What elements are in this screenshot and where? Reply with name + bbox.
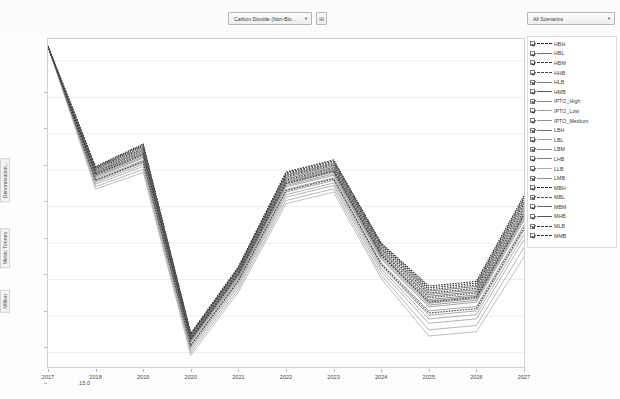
legend-item-label: MLB xyxy=(554,223,565,229)
legend-checkbox-icon[interactable] xyxy=(530,176,535,181)
legend-checkbox-icon[interactable] xyxy=(530,214,535,219)
legend-item-label: LBM xyxy=(554,146,565,152)
legend-item-label: LLB xyxy=(554,166,564,172)
chart-legend[interactable]: HBHHBLHBMHHBHLBHMBIPTO_HighIPTO_LowIPTO_… xyxy=(527,36,617,248)
series-line xyxy=(48,46,524,336)
legend-checkbox-icon[interactable] xyxy=(530,89,535,94)
legend-line-swatch xyxy=(537,137,552,142)
legend-item-lbh[interactable]: LBH xyxy=(530,125,614,135)
legend-item-label: LMB xyxy=(554,175,565,181)
legend-line-swatch xyxy=(537,128,552,133)
legend-checkbox-icon[interactable] xyxy=(530,156,535,161)
legend-item-mbl[interactable]: MBL xyxy=(530,193,614,203)
legend-checkbox-icon[interactable] xyxy=(530,166,535,171)
y-axis-title-part: Million xyxy=(0,290,10,313)
legend-line-swatch xyxy=(537,176,552,181)
x-axis-tick-label: 2021 xyxy=(218,374,258,380)
legend-item-mbm[interactable]: MBM xyxy=(530,202,614,212)
y-axis-tick-label: 15.0 xyxy=(50,380,90,386)
chevron-down-icon: ▼ xyxy=(607,17,611,21)
x-axis-tick-label: 2022 xyxy=(266,374,306,380)
legend-item-label: HBL xyxy=(554,50,564,56)
scenario-select[interactable]: All Scenarios ▼ xyxy=(527,12,615,25)
legend-item-mmb[interactable]: MMB xyxy=(530,231,614,241)
x-axis-tick-label: 2019 xyxy=(123,374,163,380)
legend-item-mhb[interactable]: MHB xyxy=(530,212,614,222)
y-axis-tick-mark xyxy=(44,383,47,384)
legend-line-swatch xyxy=(537,108,552,113)
chevron-down-icon: ▼ xyxy=(304,17,308,21)
x-axis-tick-mark xyxy=(381,369,382,372)
legend-item-lbm[interactable]: LBM xyxy=(530,145,614,155)
legend-item-lhb[interactable]: LHB xyxy=(530,154,614,164)
legend-line-swatch xyxy=(537,214,552,219)
series-line xyxy=(48,46,524,346)
x-axis-tick-label: 2024 xyxy=(361,374,401,380)
dimension-filter-group: Carbon Dioxide (Non-Biogenic) ▼ ⊞ xyxy=(228,12,327,25)
legend-line-swatch xyxy=(537,51,552,56)
legend-line-swatch xyxy=(537,118,552,123)
legend-checkbox-icon[interactable] xyxy=(530,195,535,200)
legend-line-swatch xyxy=(537,60,552,65)
legend-item-mlb[interactable]: MLB xyxy=(530,221,614,231)
legend-item-hbm[interactable]: HBM xyxy=(530,58,614,68)
legend-checkbox-icon[interactable] xyxy=(530,185,535,190)
legend-item-label: HLB xyxy=(554,79,564,85)
legend-line-swatch xyxy=(537,147,552,152)
legend-line-swatch xyxy=(537,233,552,238)
scenario-select-value: All Scenarios xyxy=(533,16,563,22)
legend-item-ipto_low[interactable]: IPTO_Low xyxy=(530,106,614,116)
x-axis-tick-mark xyxy=(238,369,239,372)
legend-item-label: HMB xyxy=(554,89,566,95)
legend-item-hlb[interactable]: HLB xyxy=(530,77,614,87)
legend-line-swatch xyxy=(537,195,552,200)
legend-checkbox-icon[interactable] xyxy=(530,128,535,133)
legend-item-label: MMB xyxy=(554,233,566,239)
legend-item-ipto_medium[interactable]: IPTO_Medium xyxy=(530,116,614,126)
legend-item-label: IPTO_Low xyxy=(554,108,579,114)
legend-checkbox-icon[interactable] xyxy=(530,51,535,56)
legend-checkbox-icon[interactable] xyxy=(530,99,535,104)
legend-checkbox-icon[interactable] xyxy=(530,233,535,238)
legend-checkbox-icon[interactable] xyxy=(530,80,535,85)
plot-area xyxy=(47,38,525,368)
legend-checkbox-icon[interactable] xyxy=(530,70,535,75)
legend-item-hmb[interactable]: HMB xyxy=(530,87,614,97)
legend-item-hhb[interactable]: HHB xyxy=(530,68,614,78)
legend-item-label: IPTO_Medium xyxy=(554,118,588,124)
x-axis-tick-mark xyxy=(524,369,525,372)
legend-line-swatch xyxy=(537,204,552,209)
legend-line-swatch xyxy=(537,70,552,75)
legend-item-ipto_high[interactable]: IPTO_High xyxy=(530,97,614,107)
x-axis-tick-mark xyxy=(143,369,144,372)
x-axis-tick-mark xyxy=(48,369,49,372)
x-axis-tick-mark xyxy=(96,369,97,372)
dimension-select[interactable]: Carbon Dioxide (Non-Biogenic) ▼ xyxy=(228,12,312,25)
legend-item-mbh[interactable]: MBH xyxy=(530,183,614,193)
legend-item-hbh[interactable]: HBH xyxy=(530,39,614,49)
legend-checkbox-icon[interactable] xyxy=(530,118,535,123)
legend-line-swatch xyxy=(537,80,552,85)
legend-checkbox-icon[interactable] xyxy=(530,108,535,113)
legend-line-swatch xyxy=(537,156,552,161)
legend-checkbox-icon[interactable] xyxy=(530,204,535,209)
legend-line-swatch xyxy=(537,185,552,190)
y-axis-title-part: Denomination... xyxy=(0,158,10,202)
chart-page: Carbon Dioxide (Non-Biogenic) ▼ ⊞ All Sc… xyxy=(0,0,620,399)
legend-checkbox-icon[interactable] xyxy=(530,60,535,65)
series-line xyxy=(48,46,524,340)
legend-line-swatch xyxy=(537,166,552,171)
x-axis-tick-mark xyxy=(476,369,477,372)
legend-item-lbl[interactable]: LBL xyxy=(530,135,614,145)
dimension-select-value: Carbon Dioxide (Non-Biogenic) xyxy=(234,16,299,22)
legend-checkbox-icon[interactable] xyxy=(530,137,535,142)
legend-line-swatch xyxy=(537,224,552,229)
legend-item-llb[interactable]: LLB xyxy=(530,164,614,174)
legend-item-label: LHB xyxy=(554,156,564,162)
legend-checkbox-icon[interactable] xyxy=(530,224,535,229)
legend-checkbox-icon[interactable] xyxy=(530,41,535,46)
legend-item-lmb[interactable]: LMB xyxy=(530,173,614,183)
legend-checkbox-icon[interactable] xyxy=(530,147,535,152)
filter-grid-button[interactable]: ⊞ xyxy=(316,12,327,25)
legend-item-hbl[interactable]: HBL xyxy=(530,49,614,59)
